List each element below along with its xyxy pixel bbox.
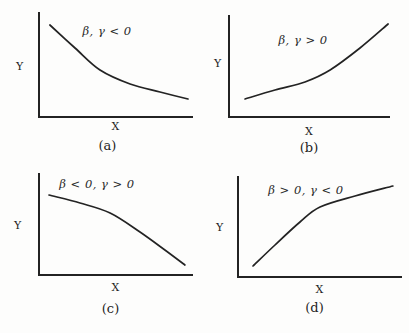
curve-c <box>49 195 185 265</box>
panel-b: β, γ > 0 Y X (b) <box>205 0 409 166</box>
axes-b <box>229 15 390 117</box>
panel-c: β < 0, γ > 0 Y X (c) <box>0 166 205 333</box>
panel-c-caption: (c) <box>33 301 188 316</box>
four-panel-curve-figure: β, γ < 0 Y X (a) β, γ > 0 Y X (b) β < 0,… <box>0 0 409 333</box>
panel-d: β > 0, γ < 0 Y X (d) <box>205 166 409 333</box>
panel-d-xlabel: X <box>237 283 402 296</box>
panel-b-xlabel: X <box>228 125 390 138</box>
plot-b-svg <box>228 15 390 118</box>
panel-b-ylabel: Y <box>214 57 222 70</box>
panel-c-ylabel: Y <box>14 219 22 232</box>
curve-d <box>253 186 393 266</box>
panel-b-annotation: β, γ > 0 <box>248 33 358 47</box>
panel-a-ylabel: Y <box>16 60 24 73</box>
panel-a-xlabel: X <box>38 120 193 133</box>
panel-d-ylabel: Y <box>216 221 224 234</box>
panel-b-caption: (b) <box>228 140 390 155</box>
panel-a-annotation: β, γ < 0 <box>52 24 162 38</box>
panel-a: β, γ < 0 Y X (a) <box>0 0 205 166</box>
panel-d-caption: (d) <box>232 300 397 315</box>
panel-c-annotation: β < 0, γ > 0 <box>42 177 152 191</box>
panel-d-annotation: β > 0, γ < 0 <box>251 183 361 197</box>
panel-c-xlabel: X <box>38 281 193 294</box>
panel-a-caption: (a) <box>30 138 185 153</box>
